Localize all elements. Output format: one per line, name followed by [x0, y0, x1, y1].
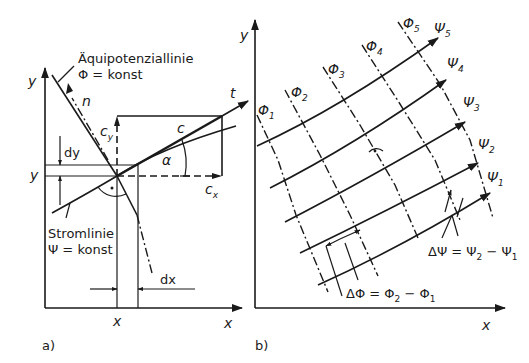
equipotential-title: Äquipotenziallinie [78, 51, 193, 66]
delta-phi-extension [345, 243, 358, 280]
streamline-title: Stromlinie [48, 226, 114, 241]
streamline-curve [52, 126, 236, 213]
delta-psi-leader-2 [452, 215, 458, 236]
psi-label-4: Ψ4 [447, 55, 464, 74]
normal-n-arrowhead [66, 83, 73, 94]
equipotential-leader [58, 66, 74, 82]
phi-label-2: Φ2 [291, 84, 308, 103]
dx-label: dx [160, 272, 176, 287]
x-axis-label-a: x [223, 315, 233, 331]
psi-label-5: Ψ5 [434, 20, 451, 39]
panel-b: y x Φ1 Φ2 Φ3 Φ4 Φ5 Ψ1 Ψ2 Ψ3 Ψ4 Ψ5 ΔΨ [239, 15, 517, 353]
point-y-label: y [29, 167, 39, 183]
dy-label: dy [64, 145, 80, 160]
potential-flow-diagram: y x dy y dx x cy cx t c Strom [0, 0, 529, 363]
streamline-eq: Ψ = konst [48, 242, 113, 257]
streamline-psi-3 [285, 122, 465, 222]
equipotential-phi-2 [285, 90, 378, 276]
point-x-label: x [112, 313, 122, 329]
y-axis-label-a: y [27, 73, 37, 89]
equipotential-phi-4 [362, 45, 460, 220]
streamline-psi-5 [257, 38, 438, 146]
tangent-t-arrow [222, 101, 248, 116]
panel-b-label: b) [255, 338, 268, 353]
panel-a: y x dy y dx x cy cx t c Strom [27, 51, 248, 353]
equipotential-phi-3 [323, 67, 418, 238]
panel-a-label: a) [42, 338, 55, 353]
cx-label: cx [205, 181, 219, 200]
phi-label-3: Φ3 [328, 61, 345, 80]
delta-psi-arrow-lower [445, 190, 451, 212]
delta-phi-leader [326, 246, 342, 296]
angle-alpha-arc [182, 140, 186, 176]
psi-label-3: Ψ3 [463, 94, 480, 113]
delta-phi-label: ΔΦ = Φ2 − Φ1 [346, 286, 435, 304]
delta-psi-label: ΔΨ = Ψ2 − Ψ1 [428, 244, 517, 262]
psi-label-2: Ψ2 [478, 136, 495, 155]
phi-label-1: Φ1 [258, 102, 275, 121]
cy-arrowhead [114, 116, 120, 126]
streamline-psi-2 [300, 163, 478, 253]
angle-alpha-label: α [162, 152, 172, 168]
normal-label: n [82, 93, 91, 109]
psi-label-1: Ψ1 [487, 169, 504, 188]
phi-label-5: Φ5 [403, 15, 420, 34]
y-axis-label-b: y [239, 27, 249, 43]
cy-label: cy [100, 123, 114, 142]
phi-label-4: Φ4 [366, 38, 383, 57]
delta-psi-between [457, 198, 463, 217]
equipotential-line-dashdot [137, 215, 152, 273]
right-angle-dot-a [111, 187, 114, 190]
velocity-label: c [177, 120, 185, 136]
tangent-label: t [230, 85, 236, 101]
cx-arrowhead [212, 173, 222, 179]
equipotential-phi-5 [398, 22, 493, 218]
x-axis-label-b: x [481, 317, 491, 333]
equipotential-eq: Φ = konst [78, 67, 143, 82]
right-angle-dot-b [374, 150, 377, 153]
